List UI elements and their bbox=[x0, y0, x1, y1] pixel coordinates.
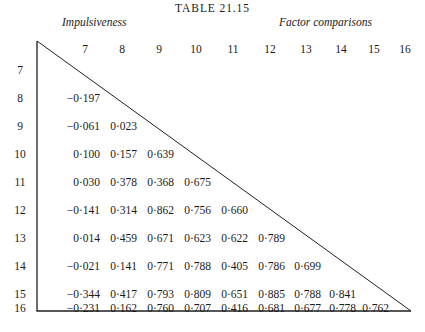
cell-r12-c11: 0·660 bbox=[210, 204, 248, 216]
cell-r16-c10: 0·707 bbox=[173, 302, 211, 314]
cell-r16-c8: 0·162 bbox=[99, 302, 137, 314]
cell-r14-c9: 0·771 bbox=[136, 260, 174, 272]
cell-r14-c10: 0·788 bbox=[173, 260, 211, 272]
cell-r12-c10: 0·756 bbox=[173, 204, 211, 216]
cell-r11-c9: 0·368 bbox=[136, 176, 174, 188]
cell-r15-c9: 0·793 bbox=[136, 288, 174, 300]
cell-r13-c7: 0·014 bbox=[62, 232, 100, 244]
cell-r10-c8: 0·157 bbox=[99, 148, 137, 160]
cell-r16-c11: 0·416 bbox=[210, 302, 248, 314]
cell-r15-c11: 0·651 bbox=[210, 288, 248, 300]
cell-r16-c13: 0·677 bbox=[283, 302, 321, 314]
cell-r16-c9: 0·760 bbox=[136, 302, 174, 314]
cell-r11-c7: 0·030 bbox=[62, 176, 100, 188]
cell-r11-c10: 0·675 bbox=[173, 176, 211, 188]
cell-r14-c7: −0·021 bbox=[62, 260, 100, 272]
cell-r16-c15: 0·762 bbox=[351, 302, 389, 314]
cell-r12-c7: −0·141 bbox=[62, 204, 100, 216]
cell-r15-c10: 0·809 bbox=[173, 288, 211, 300]
cell-r16-c7: −0·231 bbox=[62, 302, 100, 314]
table-figure: TABLE 21.15 Impulsiveness Factor compari… bbox=[0, 0, 425, 332]
cell-r13-c8: 0·459 bbox=[99, 232, 137, 244]
cell-r10-c7: 0·100 bbox=[62, 148, 100, 160]
cell-r10-c9: 0·639 bbox=[136, 148, 174, 160]
cell-r13-c9: 0·671 bbox=[136, 232, 174, 244]
cell-r12-c8: 0·314 bbox=[99, 204, 137, 216]
cell-r12-c9: 0·862 bbox=[136, 204, 174, 216]
cell-r8-c7: −0·197 bbox=[62, 92, 100, 104]
cell-r9-c7: −0·061 bbox=[62, 120, 100, 132]
cell-r15-c13: 0·788 bbox=[283, 288, 321, 300]
cell-r13-c12: 0·789 bbox=[247, 232, 285, 244]
cell-r14-c12: 0·786 bbox=[247, 260, 285, 272]
cell-r15-c14: 0·841 bbox=[318, 288, 356, 300]
cell-r11-c8: 0·378 bbox=[99, 176, 137, 188]
cell-r15-c12: 0·885 bbox=[247, 288, 285, 300]
cell-r13-c10: 0·623 bbox=[173, 232, 211, 244]
cell-r15-c8: 0·417 bbox=[99, 288, 137, 300]
cell-r13-c11: 0·622 bbox=[210, 232, 248, 244]
cell-r14-c13: 0·699 bbox=[283, 260, 321, 272]
cell-r9-c8: 0·023 bbox=[99, 120, 137, 132]
matrix-cells: −0·197−0·0610·0230·1000·1570·6390·0300·3… bbox=[0, 0, 425, 332]
cell-r16-c12: 0·681 bbox=[247, 302, 285, 314]
cell-r14-c8: 0·141 bbox=[99, 260, 137, 272]
cell-r15-c7: −0·344 bbox=[62, 288, 100, 300]
cell-r14-c11: 0·405 bbox=[210, 260, 248, 272]
